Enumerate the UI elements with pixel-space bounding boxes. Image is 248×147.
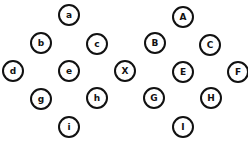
node-label: a <box>66 11 72 20</box>
node-label: i <box>67 123 70 132</box>
node-label: I <box>181 123 184 132</box>
node-b: b <box>30 32 52 54</box>
node-label: e <box>66 67 72 76</box>
node-c: c <box>86 33 108 55</box>
node-upper-b: B <box>144 32 166 54</box>
node-e: e <box>58 60 80 82</box>
node-upper-f: F <box>227 61 248 83</box>
node-label: G <box>150 94 157 103</box>
node-label: A <box>180 13 187 22</box>
node-upper-c: C <box>199 34 221 56</box>
node-label: g <box>38 95 44 104</box>
node-g: g <box>30 88 52 110</box>
node-label: c <box>94 40 99 49</box>
node-upper-a: A <box>172 6 194 28</box>
node-upper-e: E <box>172 61 194 83</box>
node-label: h <box>94 94 100 103</box>
node-x: X <box>114 60 136 82</box>
node-label: b <box>38 39 44 48</box>
node-label: d <box>10 67 16 76</box>
node-upper-g: G <box>143 87 165 109</box>
letter-node-diagram: a b c d e g h i X A B C E F G H I <box>0 0 248 147</box>
node-label: C <box>207 41 214 50</box>
node-upper-i: I <box>172 116 194 138</box>
node-label: H <box>207 94 215 103</box>
node-a: a <box>58 4 80 26</box>
node-label: X <box>122 67 129 76</box>
node-h: h <box>86 87 108 109</box>
node-label: F <box>235 68 241 77</box>
node-label: E <box>180 68 186 77</box>
node-d: d <box>2 60 24 82</box>
node-i: i <box>58 116 80 138</box>
node-label: B <box>152 39 159 48</box>
node-upper-h: H <box>200 87 222 109</box>
